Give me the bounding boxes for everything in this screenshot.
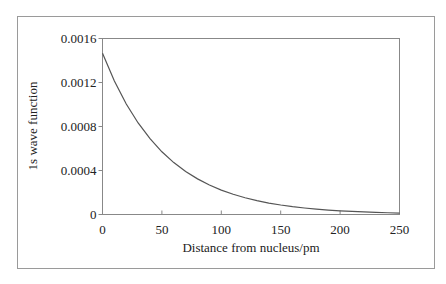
y-tick-label: 0.0012 bbox=[61, 75, 97, 90]
x-tick-label: 0 bbox=[99, 222, 106, 237]
y-tick-label: 0.0008 bbox=[61, 119, 97, 134]
y-tick-label: 0.0016 bbox=[61, 31, 97, 46]
chart: 00.00040.00080.00120.0016 05010015020025… bbox=[0, 0, 446, 284]
x-axis-title: Distance from nucleus/pm bbox=[182, 240, 319, 255]
x-tick-label: 150 bbox=[271, 222, 291, 237]
x-tick-label: 250 bbox=[390, 222, 410, 237]
y-tick-label: 0 bbox=[90, 207, 97, 222]
y-tick-label: 0.0004 bbox=[61, 163, 97, 178]
x-tick-label: 200 bbox=[330, 222, 350, 237]
x-tick-label: 50 bbox=[155, 222, 168, 237]
x-tick-label: 100 bbox=[212, 222, 232, 237]
plot-area bbox=[103, 39, 400, 215]
y-axis-title: 1s wave function bbox=[25, 81, 40, 170]
